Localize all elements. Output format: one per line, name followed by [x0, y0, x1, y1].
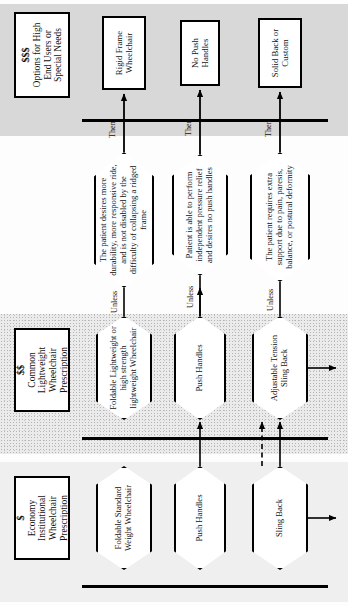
divider-economy: [82, 586, 328, 589]
connector-label-unless-frame: Unless: [110, 291, 119, 313]
tier-caption-premium-line3: Special Needs: [53, 28, 64, 82]
condition-back[interactable]: The patient requires extra support due t…: [250, 152, 310, 282]
result-back[interactable]: Solid Back or Custom: [258, 18, 302, 88]
node-label: Push Handles: [195, 344, 205, 391]
tier-header-premium: $$$ Options for High End Users or Specia…: [14, 12, 70, 98]
node-economy-handles[interactable]: Push Handles: [174, 466, 226, 570]
tier-header-common: $$ Common Lightweight Wheelchair Prescri…: [14, 328, 70, 412]
tier-caption-premium-line2: End Users or: [43, 30, 54, 80]
condition-frame[interactable]: The patient desires more durability, mor…: [94, 152, 154, 288]
connector-label-unless-handles: Unless: [186, 286, 195, 308]
condition-label: The patient requires extra support due t…: [265, 161, 295, 273]
tier-header-economy: $ Economy Institutional Wheelchair Presc…: [14, 476, 70, 560]
tier-caption-common-line3: Wheelchair: [48, 348, 59, 392]
rotated-page-wrapper: $ Economy Institutional Wheelchair Presc…: [0, 0, 348, 606]
node-common-frame[interactable]: Foldable Lightweight or high strength li…: [96, 316, 152, 420]
result-frame[interactable]: Rigid Frame Wheelchair: [102, 16, 146, 90]
result-handles[interactable]: No Push Handles: [180, 20, 220, 86]
node-common-back[interactable]: Adjustable Tension Sling Back: [252, 316, 308, 420]
tier-caption-economy-line1: Economy: [27, 500, 38, 536]
result-label: Rigid Frame Wheelchair: [114, 21, 135, 85]
condition-label: Patient is able to perform independent p…: [185, 163, 215, 267]
tier-caption-common-line2: Lightweight: [37, 347, 48, 393]
node-economy-back[interactable]: Sling Back: [252, 466, 308, 570]
node-label: Foldable Standard Weight Wheelchair: [114, 475, 134, 561]
connector-label-then-back: Then: [264, 120, 273, 137]
tier-caption-economy-line4: Prescription: [59, 495, 70, 541]
node-label: Sling Back: [275, 499, 285, 537]
tier-caption-premium-line1: Options for High: [32, 23, 43, 88]
flowchart-canvas: $ Economy Institutional Wheelchair Presc…: [0, 0, 348, 606]
node-common-handles[interactable]: Push Handles: [174, 316, 226, 420]
result-label: No Push Handles: [190, 25, 211, 81]
tier-price-economy: $: [15, 516, 26, 521]
node-label: Adjustable Tension Sling Back: [270, 325, 290, 411]
tier-caption-economy-line3: Wheelchair: [48, 496, 59, 540]
connector-label-then-handles: Then: [184, 119, 193, 136]
tier-caption-common-line4: Prescription: [59, 347, 70, 393]
result-label: Solid Back or Custom: [270, 23, 291, 83]
tier-price-common: $$: [15, 365, 26, 375]
connector-label-unless-back: Unless: [266, 289, 275, 311]
node-economy-frame[interactable]: Foldable Standard Weight Wheelchair: [96, 466, 152, 570]
tier-price-premium: $$$: [20, 48, 31, 63]
connector-label-then-frame: Then: [108, 121, 117, 138]
node-label: Push Handles: [195, 494, 205, 541]
tier-caption-common-line1: Common: [27, 352, 38, 387]
divider-premium: [82, 120, 328, 123]
divider-common: [82, 438, 328, 441]
condition-handles[interactable]: Patient is able to perform independent p…: [172, 154, 228, 276]
condition-label: The patient desires more durability, mor…: [99, 161, 148, 279]
node-label: Foldable Lightweight or high strength li…: [109, 325, 139, 411]
tier-caption-economy-line2: Institutional: [37, 495, 48, 541]
